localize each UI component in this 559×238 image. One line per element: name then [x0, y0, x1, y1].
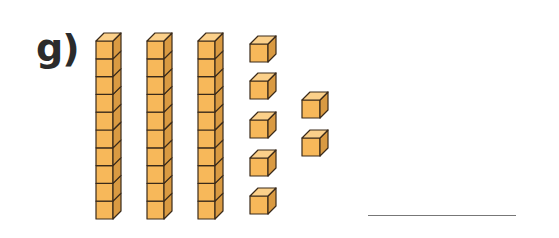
cube-front: [147, 166, 164, 184]
cube-front: [147, 130, 164, 148]
cube-front: [147, 94, 164, 112]
cube-front: [198, 130, 215, 148]
cube-front: [147, 183, 164, 201]
cube-front: [96, 130, 113, 148]
cube-front: [198, 59, 215, 77]
unit-cube: [250, 188, 276, 214]
base-ten-blocks: [0, 0, 559, 238]
unit-cube: [250, 73, 276, 99]
ten-rod: [198, 33, 223, 219]
cube-front: [147, 148, 164, 166]
cube-front: [147, 41, 164, 59]
cube-front: [250, 196, 268, 214]
cube-front: [198, 77, 215, 95]
cube-front: [198, 94, 215, 112]
cube-front: [302, 100, 320, 118]
cube-front: [198, 166, 215, 184]
cube-front: [250, 81, 268, 99]
unit-cube: [250, 150, 276, 176]
unit-cube: [302, 92, 328, 118]
cube-front: [96, 148, 113, 166]
cube-front: [147, 59, 164, 77]
cube-front: [96, 166, 113, 184]
ten-rod: [147, 33, 172, 219]
cube-front: [250, 158, 268, 176]
cube-front: [96, 183, 113, 201]
cube-front: [147, 77, 164, 95]
unit-cube: [250, 36, 276, 62]
cube-front: [96, 201, 113, 219]
cube-front: [96, 112, 113, 130]
cube-front: [198, 183, 215, 201]
cube-front: [147, 112, 164, 130]
ten-rod: [96, 33, 121, 219]
cube-front: [147, 201, 164, 219]
cube-front: [198, 201, 215, 219]
cube-front: [198, 41, 215, 59]
cube-front: [198, 112, 215, 130]
cube-front: [250, 44, 268, 62]
unit-cube: [302, 130, 328, 156]
cube-front: [96, 59, 113, 77]
unit-cube: [250, 112, 276, 138]
cube-front: [96, 77, 113, 95]
cube-front: [198, 148, 215, 166]
cube-front: [302, 138, 320, 156]
cube-front: [96, 94, 113, 112]
cube-front: [96, 41, 113, 59]
answer-line[interactable]: [368, 215, 516, 216]
cube-front: [250, 120, 268, 138]
